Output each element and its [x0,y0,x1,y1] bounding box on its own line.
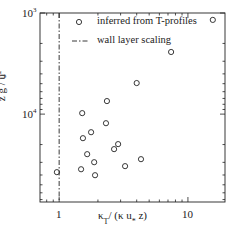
legend [72,19,89,41]
x-axis-title-kappa: κ [98,209,104,221]
data-point-circle [104,98,109,103]
legend-circle-icon [76,19,81,24]
data-point-circle [85,152,90,157]
data-point-circle [80,136,85,141]
xtick-label-1: 1 [56,209,62,220]
legend-label-inferred: inferred from T-profiles [97,16,197,27]
x-axis-title-sub2: * [132,217,136,226]
ytick-label-10000: 104 [22,108,37,120]
x-axis-title: κT/ (κ u* z) [98,210,147,221]
data-point-circle [168,49,173,54]
ytick-base: 10 [22,7,33,19]
ytick-label-1000: 103 [22,7,37,19]
data-point-circle [92,160,97,165]
data-point-circle [54,170,59,175]
data-point-circle [210,17,215,22]
y-axis-title-text: z g / u [0,74,7,101]
y-axis-title: z g / u2* [0,70,7,101]
data-point-circle [138,157,143,162]
data-point-circle [134,80,139,85]
x-axis-title-end: z) [136,209,147,221]
data-point-circle [92,173,97,178]
xtick-label-10: 10 [182,209,193,220]
ytick-base: 10 [22,108,33,120]
data-point-circle [111,147,116,152]
ytick-exp: 4 [33,107,37,115]
ytick-exp: 3 [33,6,37,14]
data-point-circle [116,142,121,147]
data-point-circle [88,130,93,135]
data-point-circle [78,167,83,172]
legend-label-wall: wall layer scaling [97,35,171,46]
data-point-circle [122,164,127,169]
data-point-circle [80,111,85,116]
data-point-circle [103,121,108,126]
y-axis-title-sub: * [2,74,9,78]
x-axis-title-text: / (κ u [108,209,131,221]
x-axis-title-sub: T [104,217,109,226]
